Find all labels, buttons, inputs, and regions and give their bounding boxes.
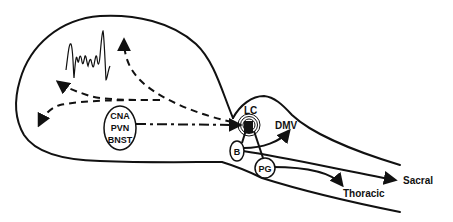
sacral-label: Sacral <box>403 175 433 186</box>
bnst-label: BNST <box>108 135 133 145</box>
lc-cortex-projection-left-lower <box>39 100 160 125</box>
forebrain-to-lc-projection <box>136 124 240 125</box>
lc-cortex-projection-up <box>124 40 232 122</box>
pvn-label: PVN <box>111 123 130 133</box>
lc-cortex-projection-left-upper <box>58 82 160 100</box>
lc-label: LC <box>244 105 257 116</box>
b-label: B <box>234 147 241 157</box>
thoracic-label: Thoracic <box>343 188 385 199</box>
eeg-trace-icon <box>66 31 110 80</box>
dmv-label: DMV <box>275 120 298 131</box>
pg-to-thoracic-projection <box>272 167 342 185</box>
cna-label: CNA <box>110 111 130 121</box>
locus-coeruleus-node <box>238 114 260 136</box>
pg-label: PG <box>258 164 271 174</box>
brain-outline <box>16 16 400 212</box>
brain-pathway-diagram: CNA PVN BNST LC DMV Sacral Thoracic B PG <box>0 0 453 222</box>
